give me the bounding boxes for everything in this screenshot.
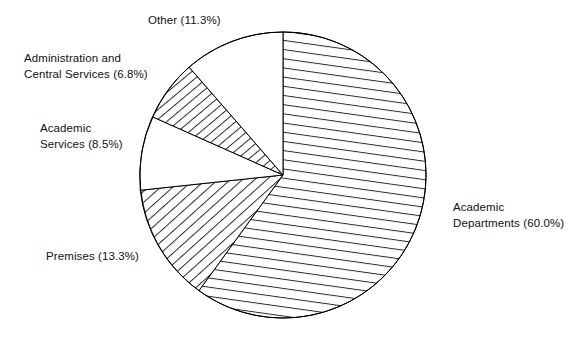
pie-label-administration-line1: Administration and [24, 50, 148, 66]
pie-label-other: Other (11.3%) [148, 12, 221, 28]
pie-label-premises: Premises (13.3%) [46, 248, 139, 264]
pie-label-other-line1: Other (11.3%) [148, 12, 221, 28]
pie-label-academic-departments-line2: Departments (60.0%) [453, 215, 564, 231]
pie-slices [140, 32, 426, 318]
pie-label-academic-departments-line1: Academic [453, 199, 564, 215]
pie-label-premises-line1: Premises (13.3%) [46, 248, 139, 264]
pie-label-academic-services: Academic Services (8.5%) [40, 120, 123, 152]
pie-label-academic-services-line1: Academic [40, 120, 123, 136]
pie-label-administration-central-services: Administration and Central Services (6.8… [24, 50, 148, 82]
pie-chart-figure: Other (11.3%) Administration and Central… [0, 0, 575, 338]
pie-label-academic-departments: Academic Departments (60.0%) [453, 199, 564, 231]
pie-label-administration-line2: Central Services (6.8%) [24, 66, 148, 82]
pie-label-academic-services-line2: Services (8.5%) [40, 136, 123, 152]
